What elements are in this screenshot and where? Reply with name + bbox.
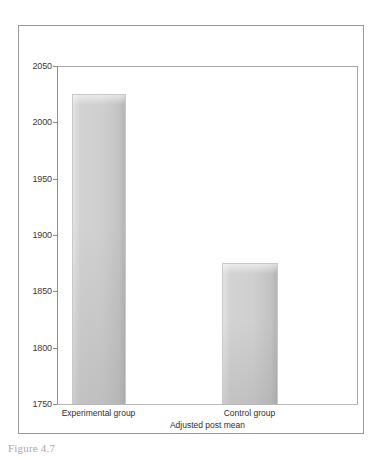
y-tick-mark <box>53 291 57 292</box>
y-tick-label: 1800 <box>12 344 52 353</box>
y-tick-label: 2050 <box>12 62 52 71</box>
y-tick-label: 1900 <box>12 231 52 240</box>
y-tick-mark <box>53 179 57 180</box>
y-axis-line <box>57 66 58 405</box>
y-tick-mark <box>53 122 57 123</box>
category-label-control-group: Control group <box>193 408 306 419</box>
x-axis-title: Adjusted post mean <box>57 420 358 431</box>
figure-caption: Figure 4.7 <box>8 442 55 454</box>
y-tick-label: 2000 <box>12 118 52 127</box>
x-axis-line <box>57 404 358 405</box>
y-tick-mark <box>53 348 57 349</box>
bar-control-group[interactable] <box>222 263 278 404</box>
bar-chart: 2050 2000 1950 1900 1850 1800 1750 Exper… <box>0 0 384 464</box>
category-label-experimental-group: Experimental group <box>42 408 155 419</box>
y-tick-mark <box>53 404 57 405</box>
y-tick-mark <box>53 235 57 236</box>
y-tick-label: 1850 <box>12 287 52 296</box>
y-tick-mark <box>53 66 57 67</box>
bar-experimental-group[interactable] <box>72 94 126 404</box>
y-tick-label: 1950 <box>12 175 52 184</box>
